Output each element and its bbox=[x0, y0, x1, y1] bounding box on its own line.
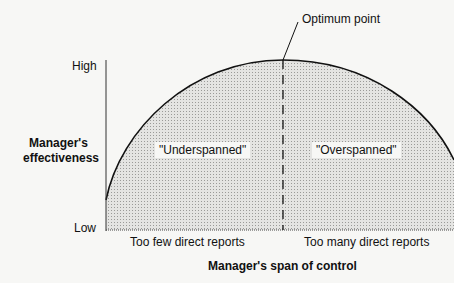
underspanned-label: "Underspanned" bbox=[155, 142, 250, 158]
x-axis-label: Manager's span of control bbox=[208, 259, 357, 273]
y-axis-label-line1: Manager's bbox=[29, 136, 88, 150]
y-tick-low: Low bbox=[74, 221, 96, 235]
optimum-leader-line bbox=[283, 22, 298, 60]
y-axis-label-line2: effectiveness bbox=[23, 151, 99, 165]
overspanned-label: "Overspanned" bbox=[312, 142, 401, 158]
too-few-label: Too few direct reports bbox=[130, 235, 245, 249]
optimum-point-label: Optimum point bbox=[302, 12, 380, 26]
y-tick-high: High bbox=[72, 59, 97, 73]
too-many-label: Too many direct reports bbox=[304, 235, 429, 249]
